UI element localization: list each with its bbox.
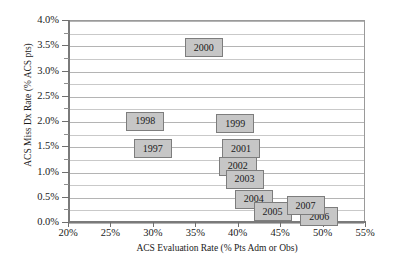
- y-axis-tick: [62, 197, 69, 198]
- data-point-1999: 1999: [216, 114, 254, 133]
- y-axis-tick: [62, 45, 69, 46]
- x-axis-tick-label: 55%: [343, 227, 387, 239]
- data-point-1998: 1998: [126, 112, 164, 131]
- y-axis-tick: [62, 20, 69, 21]
- y-axis-tick: [64, 83, 69, 84]
- gridline: [69, 109, 364, 110]
- y-axis-tick: [64, 184, 69, 185]
- x-axis-tick-label: 30%: [131, 227, 175, 239]
- y-axis-tick: [64, 33, 69, 34]
- data-point-2000: 2000: [185, 38, 223, 57]
- y-axis-tick: [62, 146, 69, 147]
- gridline: [69, 173, 364, 174]
- gridline: [69, 59, 364, 60]
- x-axis-tick-label: 40%: [216, 227, 260, 239]
- y-axis-tick: [62, 121, 69, 122]
- gridline: [69, 147, 364, 148]
- y-axis-tick-label: 0.0%: [19, 217, 59, 227]
- x-axis-tick-label: 25%: [88, 227, 132, 239]
- y-axis-tick: [62, 172, 69, 173]
- y-axis-tick: [64, 108, 69, 109]
- x-axis-tick-label: 35%: [173, 227, 217, 239]
- gridline: [69, 84, 364, 85]
- y-axis-tick: [64, 159, 69, 160]
- data-point-2007: 2007: [287, 196, 325, 215]
- y-axis-tick: [62, 71, 69, 72]
- scatter-chart: 0.0%0.5%1.0%1.5%2.0%2.5%3.0%3.5%4.0%20%2…: [0, 0, 393, 267]
- gridline: [69, 160, 364, 161]
- gridline: [69, 185, 364, 186]
- y-axis-tick: [64, 58, 69, 59]
- gridline: [69, 72, 364, 73]
- y-axis-tick: [64, 134, 69, 135]
- x-axis-tick-label: 45%: [258, 227, 302, 239]
- y-axis-tick: [62, 96, 69, 97]
- y-axis-title: ACS Miss Dx Rate (% ACS pts): [23, 5, 33, 205]
- gridline: [69, 21, 364, 22]
- gridline: [69, 135, 364, 136]
- gridline: [69, 34, 364, 35]
- data-point-2001: 2001: [222, 139, 260, 158]
- data-point-2003: 2003: [226, 170, 264, 189]
- gridline: [69, 97, 364, 98]
- x-axis-tick-label: 50%: [301, 227, 345, 239]
- x-axis-title: ACS Evaluation Rate (% Pts Adm or Obs): [68, 243, 366, 254]
- x-axis-tick-label: 20%: [46, 227, 90, 239]
- y-axis-tick: [64, 209, 69, 210]
- data-point-1997: 1997: [134, 139, 172, 158]
